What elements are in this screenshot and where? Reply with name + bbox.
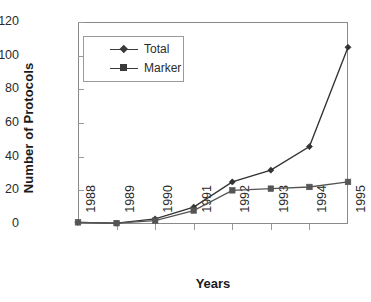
y-axis-tick-mark <box>78 89 84 90</box>
y-axis-tick-mark <box>78 123 84 124</box>
legend-entry-total: Total <box>84 41 185 59</box>
x-axis-tick-label: 1988 <box>84 185 98 231</box>
legend-label: Marker <box>144 61 181 75</box>
x-axis-tick-mark <box>194 224 195 230</box>
y-axis-tick-label: 40 <box>0 149 19 163</box>
x-axis-tick-label: 1990 <box>161 185 175 231</box>
y-axis-tick-label: 120 <box>0 14 19 28</box>
x-axis-tick-mark <box>232 224 233 230</box>
y-axis-tick-label: 100 <box>0 48 19 62</box>
chart-legend: Total Marker <box>83 36 184 82</box>
x-axis-tick-label: 1993 <box>277 185 291 231</box>
x-axis-title: Years <box>78 276 348 291</box>
x-axis-tick-label: 1992 <box>238 185 252 231</box>
legend-label: Total <box>144 42 169 56</box>
y-axis-tick-label: 80 <box>0 81 19 95</box>
x-axis-tick-label: 1994 <box>315 185 329 231</box>
x-axis-tick-label: 1989 <box>123 185 137 231</box>
y-axis-tick-label: 60 <box>0 115 19 129</box>
legend-entry-marker: Marker <box>84 60 185 78</box>
diamond-marker-icon <box>120 45 128 53</box>
x-axis-tick-label: 1991 <box>200 185 214 231</box>
x-axis-tick-mark <box>271 224 272 230</box>
y-axis-tick-label: 20 <box>0 182 19 196</box>
chart-figure: Number of Protocols 020406080100120 1988… <box>0 0 371 302</box>
x-axis-tick-mark <box>309 224 310 230</box>
y-axis-tick-mark <box>78 22 84 23</box>
y-axis-tick-label: 0 <box>0 216 19 230</box>
x-axis-tick-label: 1995 <box>354 185 368 231</box>
x-axis-tick-mark <box>117 224 118 230</box>
y-axis-tick-mark <box>78 157 84 158</box>
y-axis-title: Number of Protocols <box>19 33 39 223</box>
square-marker-icon <box>120 64 127 71</box>
x-axis-tick-mark <box>155 224 156 230</box>
